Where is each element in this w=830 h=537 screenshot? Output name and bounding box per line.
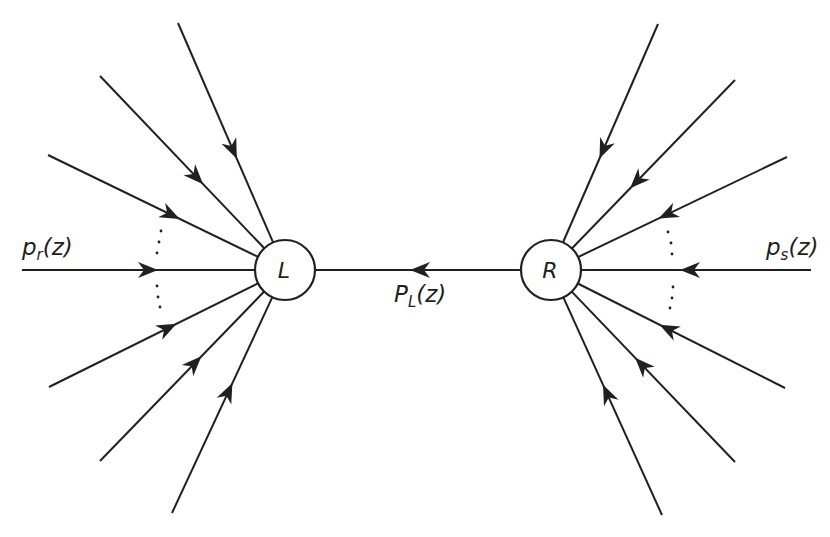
ellipsis-dot xyxy=(156,252,159,255)
ellipsis-dot xyxy=(672,286,675,289)
ellipsis-dot xyxy=(156,285,159,288)
edge-left-1 xyxy=(100,76,264,248)
label-PL-tail: (z) xyxy=(416,281,446,307)
node-L: L xyxy=(255,240,315,300)
edge-left-4 xyxy=(49,283,258,387)
label-ps-main: p xyxy=(765,234,781,260)
ellipsis-dot xyxy=(669,307,672,310)
edge-right-2 xyxy=(578,157,787,257)
ellipsis-dot xyxy=(157,296,160,299)
edge-left-0 xyxy=(178,23,273,242)
edge-left-6 xyxy=(172,297,272,513)
edge-right-4-arrowhead-icon xyxy=(659,325,680,341)
label-PL-main: P xyxy=(394,281,408,307)
ellipsis-dot xyxy=(667,231,670,234)
label-pr-z: pr(z) xyxy=(21,234,73,264)
arrowheads xyxy=(138,137,700,406)
ellipsis-dot xyxy=(671,297,674,300)
label-ps-sub: s xyxy=(781,246,789,264)
label-PL-sub: L xyxy=(408,293,416,311)
ellipsis-dot xyxy=(671,253,674,256)
ellipsis-dot xyxy=(159,306,162,309)
signal-flow-diagram: L R pr(z) ps(z) PL(z) xyxy=(0,0,830,537)
node-R: R xyxy=(521,240,581,300)
edge-left-5 xyxy=(100,292,264,461)
label-ps-z: ps(z) xyxy=(765,234,818,264)
edge-right-5 xyxy=(572,292,735,462)
edge-right-6 xyxy=(563,297,662,515)
label-ps-tail: (z) xyxy=(788,234,818,260)
label-PL-z: PL(z) xyxy=(394,281,446,311)
ellipsis-dot xyxy=(670,242,673,245)
ellipsis-dot xyxy=(160,230,163,233)
node-L-label: L xyxy=(278,258,290,283)
ellipsis-dot xyxy=(158,241,161,244)
label-pr-main: p xyxy=(21,234,37,260)
edge-right-4 xyxy=(578,284,785,388)
label-pr-tail: (z) xyxy=(43,234,73,260)
node-R-label: R xyxy=(542,258,557,283)
edge-left-2 xyxy=(48,155,258,257)
